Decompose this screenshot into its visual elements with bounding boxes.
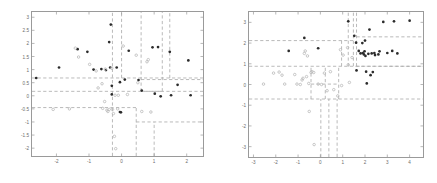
data-point [120,111,123,114]
data-point [119,81,122,84]
data-point [408,19,411,22]
x-tick-label: -2 [54,159,58,164]
data-point [112,112,115,115]
data-point [117,94,120,97]
data-point [100,68,103,71]
data-point [97,87,100,90]
data-point [58,66,61,69]
data-point [114,94,117,97]
data-point [88,63,91,66]
axis-ticks [249,12,423,157]
y-tick-label: 1 [236,61,246,66]
data-point [374,54,377,57]
data-point [74,47,77,50]
data-point [329,70,332,73]
data-point [101,107,104,110]
y-tick-label: -1.5 [19,133,29,138]
data-point [304,50,307,53]
data-point [347,20,350,23]
data-point [365,70,368,73]
data-point [340,84,343,87]
data-point [116,108,119,111]
data-point [141,110,144,113]
data-point [110,84,113,87]
data-point [168,50,171,53]
data-point [364,39,367,42]
data-point [68,108,71,111]
y-tick-label: -1 [19,119,29,124]
data-point [108,108,111,111]
y-tick-label: 3 [236,20,246,25]
data-point [302,77,305,80]
partition-lines [249,12,423,157]
y-tick-label: 0 [236,82,246,87]
data-point [95,70,98,73]
left-plot-panel: -2-1012-2-1.5-1-0.500.511.522.53 [0,0,218,183]
data-point [111,67,114,70]
data-point [361,42,364,45]
left-plot-canvas [32,12,205,158]
data-point [86,50,89,53]
x-tick-label: -3 [251,160,255,165]
data-point [137,81,140,84]
data-point [281,74,284,77]
data-point [114,147,117,150]
data-point [312,71,315,74]
data-point [187,59,190,62]
data-point [323,72,326,75]
x-tick-label: 0 [319,160,322,165]
data-point [377,53,380,56]
data-point [346,46,349,49]
data-point [113,135,116,138]
data-point [337,95,340,98]
data-point [320,83,323,86]
y-tick-label: -2 [236,123,246,128]
data-point [189,94,192,97]
y-tick-label: -3 [236,144,246,149]
y-tick-label: 2 [19,41,29,46]
data-point [101,82,104,85]
y-tick-label: -0.5 [19,106,29,111]
data-point [363,50,366,53]
data-point [122,45,125,48]
data-point [35,77,38,80]
data-point [351,56,354,59]
data-point [326,89,329,92]
right-plot-frame [248,11,424,158]
series-class-b [262,46,353,145]
data-point [396,52,399,55]
data-point [348,81,351,84]
data-point [342,54,345,57]
data-point [355,41,358,44]
data-point [151,46,154,49]
data-point [278,71,281,74]
data-point [262,83,265,86]
data-point [306,55,309,58]
data-point [110,93,113,96]
data-point [355,69,358,72]
data-point [313,143,316,146]
y-tick-label: 1 [19,67,29,72]
data-point [333,88,336,91]
data-point [109,23,112,26]
x-tick-label: -2 [274,160,278,165]
y-tick-label: 0 [19,93,29,98]
y-tick-label: 1.5 [19,54,29,59]
x-tick-label: 3 [386,160,389,165]
y-tick-label: 2 [236,41,246,46]
data-point [77,56,80,59]
data-point [137,79,140,82]
data-point [126,93,128,96]
right-plot-canvas [249,12,425,159]
y-tick-label: 2.5 [19,28,29,33]
y-tick-label: 0.5 [19,80,29,85]
data-point [308,110,311,113]
data-point [283,83,286,86]
data-point [303,37,306,40]
data-point [135,54,138,57]
y-tick-label: -2 [19,146,29,151]
data-point [293,73,296,76]
data-point [364,55,367,58]
y-tick-label: 3 [19,15,29,20]
data-point [92,68,95,71]
